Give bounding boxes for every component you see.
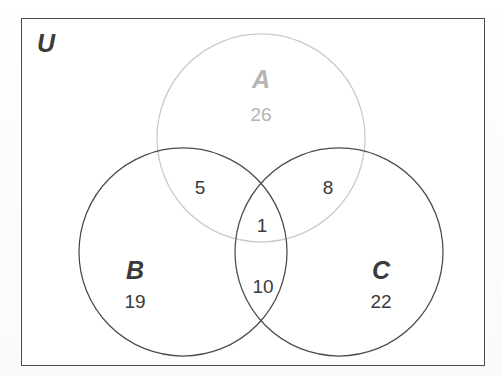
venn-diagram-figure: U A 26 B 19 C 22 5 8 1 10 bbox=[0, 0, 503, 376]
region-count-a-and-b-and-c: 1 bbox=[257, 216, 268, 235]
region-count-c-only: 22 bbox=[370, 292, 391, 311]
region-count-a-and-c: 8 bbox=[323, 178, 334, 197]
region-count-b-and-c: 10 bbox=[252, 277, 273, 296]
region-count-a-and-b: 5 bbox=[195, 178, 206, 197]
set-c-label: C bbox=[372, 258, 390, 283]
region-count-b-only: 19 bbox=[124, 292, 145, 311]
circle-set-b bbox=[79, 148, 287, 356]
set-a-label: A bbox=[252, 67, 270, 92]
set-b-label: B bbox=[126, 258, 144, 283]
circle-set-c bbox=[235, 148, 443, 356]
region-count-a-only: 26 bbox=[250, 105, 271, 124]
venn-circles bbox=[0, 0, 503, 376]
universal-set-label: U bbox=[37, 31, 55, 56]
